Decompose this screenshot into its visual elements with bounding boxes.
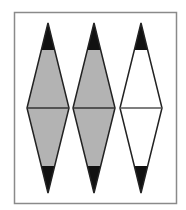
diamond-diagram [0,0,186,210]
figure [0,0,186,210]
